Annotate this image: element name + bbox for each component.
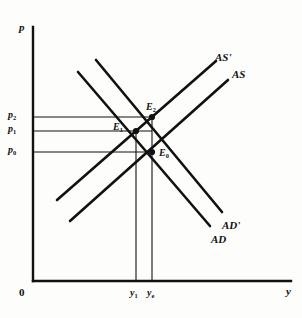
price-label-p0: p0	[8, 145, 16, 155]
equilibrium-label-e2-sub: 2	[153, 106, 156, 113]
y-axis-label: p	[19, 22, 25, 33]
price-label-p1: p1	[8, 124, 16, 134]
equilibrium-dot-e0	[149, 149, 155, 155]
equilibrium-label-e2-base: E	[146, 101, 153, 112]
equilibrium-label-e2: E2	[146, 102, 156, 112]
output-label-ye-sub: e	[151, 292, 154, 299]
output-label-y1: y1	[130, 288, 138, 298]
price-label-p2-sub: 2	[13, 114, 16, 121]
equilibrium-label-e1-base: E	[113, 121, 120, 132]
curve-label-as-prime: AS'	[215, 52, 232, 63]
origin-label: 0	[19, 287, 25, 298]
equilibrium-label-e0-sub: 0	[166, 152, 169, 159]
price-guide-lines	[33, 117, 152, 152]
as-ad-diagram: p y 0 p2 p1 p0 y1 ye AS' AS AD' AD E2 E1…	[0, 0, 302, 318]
x-axis-label: y	[286, 286, 291, 297]
output-label-ye: ye	[147, 288, 154, 298]
equilibrium-label-e1-sub: 1	[120, 126, 123, 133]
equilibrium-label-e0-base: E	[159, 147, 166, 158]
price-label-p0-sub: 0	[13, 149, 16, 156]
curve-label-ad-prime: AD'	[222, 220, 240, 231]
demand-curves	[78, 60, 222, 226]
equilibrium-dot-e2	[149, 114, 155, 120]
curve-label-as: AS	[232, 69, 245, 80]
output-label-y1-sub: 1	[134, 292, 137, 299]
curve-ad	[78, 72, 210, 226]
diagram-canvas	[0, 0, 302, 318]
price-label-p1-sub: 1	[13, 128, 16, 135]
supply-curves	[57, 61, 228, 221]
equilibrium-label-e1: E1	[113, 122, 123, 132]
price-label-p2: p2	[8, 110, 16, 120]
curve-label-ad: AD	[211, 234, 226, 245]
equilibrium-dot-e1	[133, 128, 139, 134]
equilibrium-label-e0: E0	[159, 148, 169, 158]
curve-ad-prime	[96, 60, 222, 212]
